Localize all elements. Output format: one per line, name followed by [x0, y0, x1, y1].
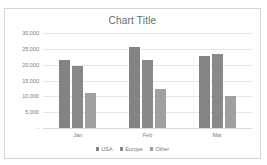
bar-group-feb: Feb: [129, 33, 166, 128]
y-axis-tick-30000: 30,000: [22, 30, 39, 36]
y-axis-tick-15000: 15,000: [22, 78, 39, 84]
bar-europe-mar[interactable]: [212, 54, 223, 128]
chart-title[interactable]: Chart Title: [5, 15, 260, 26]
y-axis-tick-25000: 25,000: [22, 46, 39, 52]
bar-europe-feb[interactable]: [142, 60, 153, 128]
legend-swatch-europe-icon: [120, 147, 124, 151]
chart-container[interactable]: Chart Title 30,000 25,000 20,000 15,000 …: [4, 8, 261, 159]
axis-baseline: [43, 128, 252, 129]
chart-legend[interactable]: USA Europe Other: [5, 146, 260, 152]
bar-other-feb[interactable]: [155, 89, 166, 128]
bar-usa-feb[interactable]: [129, 47, 140, 128]
bar-group-jan: Jan: [59, 33, 96, 128]
legend-label-other: Other: [155, 146, 169, 152]
x-axis-label-mar: Mar: [212, 132, 221, 138]
x-axis-label-feb: Feb: [143, 132, 152, 138]
bar-usa-mar[interactable]: [199, 56, 210, 128]
x-axis-label-jan: Jan: [73, 132, 82, 138]
y-axis-tick-10000: 10,000: [22, 93, 39, 99]
y-axis-tick-0: -: [37, 125, 39, 131]
legend-swatch-other-icon: [150, 147, 154, 151]
bar-europe-jan[interactable]: [72, 66, 83, 128]
bar-group-mar: Mar: [199, 33, 236, 128]
y-axis-tick-5000: 5,000: [25, 109, 39, 115]
legend-swatch-usa-icon: [96, 147, 100, 151]
legend-item-europe[interactable]: Europe: [120, 146, 143, 152]
legend-item-usa[interactable]: USA: [96, 146, 113, 152]
plot-area: 30,000 25,000 20,000 15,000 10,000 5,000…: [43, 33, 252, 128]
legend-label-europe: Europe: [125, 146, 143, 152]
legend-item-other[interactable]: Other: [150, 146, 169, 152]
bar-groups: Jan Feb Mar: [43, 33, 252, 128]
bar-usa-jan[interactable]: [59, 60, 70, 128]
bar-other-mar[interactable]: [225, 96, 236, 128]
y-axis-tick-20000: 20,000: [22, 62, 39, 68]
bar-other-jan[interactable]: [85, 93, 96, 128]
legend-label-usa: USA: [101, 146, 112, 152]
